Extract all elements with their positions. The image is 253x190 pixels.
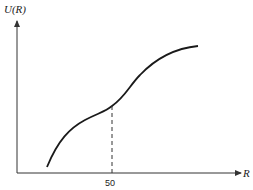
y-axis-label: U(R) xyxy=(4,3,26,16)
x-axis-label: R xyxy=(242,167,250,179)
utility-curve-diagram: U(R) R 50 xyxy=(0,0,253,190)
x-tick-50: 50 xyxy=(105,178,115,188)
utility-curve xyxy=(47,46,198,167)
